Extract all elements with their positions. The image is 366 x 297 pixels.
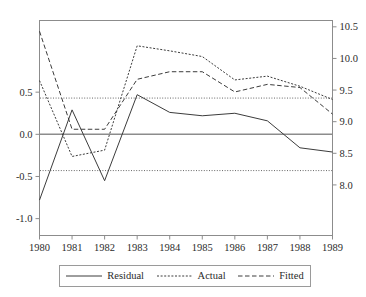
bottom-axis: 1980198119821983198419851986198719881989: [29, 236, 343, 253]
legend: Residual Actual Fitted: [59, 265, 311, 287]
legend-key-fitted-icon: [238, 272, 274, 280]
bottom-axis-tick-label: 1988: [289, 242, 310, 253]
legend-key-residual-icon: [66, 272, 102, 280]
left-axis-tick-label: 0.0: [19, 129, 32, 140]
legend-key-actual-icon: [157, 272, 193, 280]
bottom-axis-tick-label: 1981: [62, 242, 83, 253]
right-axis-tick-label: 10.0: [340, 53, 358, 64]
left-axis-tick-label: 0.5: [19, 87, 32, 98]
right-axis-tick-label: 9.0: [340, 116, 353, 127]
left-axis-tick-label: -1.0: [16, 213, 33, 224]
legend-label-actual: Actual: [198, 271, 226, 282]
right-axis: 10.510.09.59.08.58.0: [333, 21, 358, 190]
legend-entry-actual: Actual: [157, 271, 226, 282]
bottom-axis-tick-label: 1984: [159, 242, 181, 253]
data-series-group: [40, 31, 333, 200]
bottom-axis-tick-label: 1983: [127, 242, 148, 253]
right-axis-tick-label: 9.5: [340, 85, 353, 96]
right-axis-tick-label: 8.5: [340, 148, 353, 159]
right-axis-tick-label: 8.0: [340, 180, 353, 191]
right-axis-tick-label: 10.5: [340, 21, 358, 32]
series-line-residual: [40, 95, 333, 200]
bottom-axis-tick-label: 1980: [29, 242, 50, 253]
legend-label-residual: Residual: [107, 271, 144, 282]
bottom-axis-tick-label: 1985: [192, 242, 213, 253]
plot-frame: [40, 21, 333, 236]
series-line-actual: [40, 46, 333, 157]
bottom-axis-tick-label: 1986: [224, 242, 245, 253]
bottom-axis-tick-label: 1987: [257, 242, 278, 253]
bottom-axis-tick-label: 1989: [322, 242, 343, 253]
plot-area: 0.50.0-0.5-1.0 10.510.09.59.08.58.0 1980…: [0, 0, 366, 297]
left-axis-tick-label: -0.5: [16, 171, 33, 182]
bottom-axis-tick-label: 1982: [94, 242, 115, 253]
legend-entry-residual: Residual: [66, 271, 144, 282]
legend-entry-fitted: Fitted: [238, 271, 304, 282]
legend-label-fitted: Fitted: [279, 271, 304, 282]
left-axis: 0.50.0-0.5-1.0: [16, 87, 40, 224]
residual-actual-fitted-chart: 0.50.0-0.5-1.0 10.510.09.59.08.58.0 1980…: [0, 0, 366, 297]
